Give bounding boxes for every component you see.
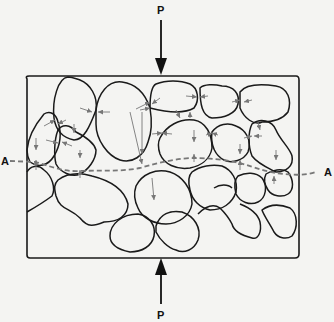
section-label-left: A	[1, 155, 9, 167]
soil-grains	[27, 77, 296, 252]
load-arrow-top: P	[155, 4, 167, 75]
arrow-down-icon	[155, 58, 167, 75]
load-label-bottom: P	[157, 309, 164, 321]
contact-force-arrows	[36, 96, 276, 200]
section-label-right: A	[324, 166, 332, 178]
load-arrow-bottom: P	[155, 258, 167, 321]
soil-grain-diagram: P P	[0, 0, 334, 322]
load-label-top: P	[157, 4, 164, 16]
soil-container-box	[26, 76, 299, 258]
section-line-a-a: A A	[1, 155, 332, 178]
